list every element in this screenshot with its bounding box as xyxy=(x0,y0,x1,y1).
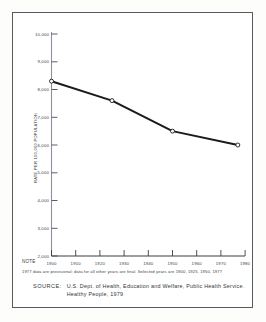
source-line-2: Healthy People, 1979 xyxy=(67,291,245,299)
x-tick-marks xyxy=(52,250,246,256)
source-label: SOURCE: xyxy=(33,283,62,289)
data-point-marker xyxy=(236,143,240,147)
chart-frame-border: 10,000 9,000 8,000 7,000 6,000 5,000 4,0… xyxy=(12,12,253,308)
data-point-marker xyxy=(110,99,114,103)
data-point-marker xyxy=(50,79,54,83)
data-series-line xyxy=(52,81,238,145)
note-text: 1977 data are provisional; data for all … xyxy=(22,269,253,274)
plot-area-wrapper: 10,000 9,000 8,000 7,000 6,000 5,000 4,0… xyxy=(13,13,254,309)
y-tick-label: 9,000 xyxy=(37,59,49,64)
data-point-marker xyxy=(171,129,175,133)
source-line-1: U.S. Dept. of Health, Education and Welf… xyxy=(67,283,245,291)
note-block: NOTE 1977 data are provisional; data for… xyxy=(21,259,253,274)
y-axis-title: RATE PER 100,000 POPULATION xyxy=(29,73,41,223)
y-tick-label: 2,000 xyxy=(37,254,49,259)
y-tick-label: 3,000 xyxy=(37,226,49,231)
y-tick-marks xyxy=(52,34,58,256)
source-lines: U.S. Dept. of Health, Education and Welf… xyxy=(67,283,245,299)
y-axis-title-text: RATE PER 100,000 POPULATION xyxy=(33,113,38,183)
note-label: NOTE xyxy=(22,259,253,264)
figure-canvas: 10,000 9,000 8,000 7,000 6,000 5,000 4,0… xyxy=(0,0,266,322)
source-block: SOURCE: U.S. Dept. of Health, Education … xyxy=(33,283,258,299)
y-tick-label: 10,000 xyxy=(35,32,50,37)
